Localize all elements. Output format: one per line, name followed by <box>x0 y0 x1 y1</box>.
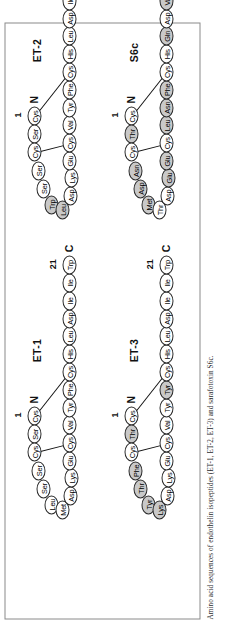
residue-bubble: Glu <box>159 451 173 470</box>
residue-bubble: Lys <box>64 168 78 187</box>
residue-bubble: Asn <box>128 161 142 180</box>
residue-bubble: Ser <box>36 179 50 198</box>
panel-title: ET-3 <box>127 338 139 361</box>
residue-bubble: Asn <box>159 98 173 117</box>
residue-bubble: Ser <box>31 461 45 480</box>
panel-title: S6c <box>127 42 139 62</box>
residue-bubble: Glu <box>161 168 175 187</box>
panel-s6c: S6c1N21CCysThrCysAsnAspMetThrAspGluGluCy… <box>104 26 200 316</box>
residue-bubble: Leu <box>159 115 173 134</box>
residue-bubble: Cys <box>27 142 41 161</box>
n-terminus-label: N <box>124 395 136 403</box>
residue-bubble: Glu <box>159 151 173 170</box>
residue-bubble: Tyr <box>62 98 76 117</box>
residue-bubble: Cys <box>62 433 76 452</box>
figure-page: ET-11N21CCysSerCysSerSerLeuMetAspLysGluC… <box>0 0 227 625</box>
panel-title: ET-1 <box>30 338 42 361</box>
residue-bubble: Val <box>62 415 76 434</box>
residue-bubble: Ile <box>62 0 76 10</box>
residue-bubble: Thr <box>124 424 138 443</box>
panel-et3: ET-31N21CCysThrCysPheThrTyrLysAspLysGluC… <box>104 326 200 616</box>
residue-bubble: His <box>62 344 76 363</box>
residue-bubble: His <box>159 344 173 363</box>
residue-bubble: Tyr <box>159 380 173 399</box>
residue-bubble: His <box>62 44 76 63</box>
position-1-label: 1 <box>109 412 119 417</box>
position-1-label: 1 <box>12 412 22 417</box>
residue-bubble: Asp <box>160 186 174 205</box>
residue-bubble: Cys <box>159 133 173 152</box>
residue-bubble: His <box>159 44 173 63</box>
residue-bubble: Asp <box>63 186 77 205</box>
residue-bubble: Thr <box>133 479 147 498</box>
residue-bubble: Cys <box>62 133 76 152</box>
residue-bubble: Cys <box>62 362 76 381</box>
residue-bubble: Asp <box>63 486 77 505</box>
n-terminus-label: N <box>27 95 39 103</box>
rotated-canvas: ET-11N21CCysSerCysSerSerLeuMetAspLysGluC… <box>0 0 227 625</box>
residue-bubble: Cys <box>159 62 173 81</box>
residue-bubble: Cys <box>62 62 76 81</box>
figure-caption: Amino acid sequences of endothelin isope… <box>206 7 214 619</box>
residue-bubble: Phe <box>62 380 76 399</box>
residue-bubble: Asp <box>133 179 147 198</box>
residue-bubble: Tyr <box>159 398 173 417</box>
n-terminus-label: N <box>124 95 136 103</box>
residue-bubble: Phe <box>128 461 142 480</box>
residue-bubble: Gln <box>159 26 173 45</box>
residue-bubble: Phe <box>159 80 173 99</box>
residue-bubble: Glu <box>62 151 76 170</box>
position-1-label: 1 <box>109 112 119 117</box>
residue-bubble: Ser <box>27 424 41 443</box>
residue-bubble: Cys <box>124 442 138 461</box>
residue-bubble: Val <box>159 0 173 10</box>
figure-border: ET-11N21CCysSerCysSerSerLeuMetAspLysGluC… <box>4 22 200 619</box>
residue-bubble: Asp <box>159 9 173 28</box>
panel-title: ET-2 <box>30 38 42 61</box>
residue-bubble: Leu <box>62 26 76 45</box>
residue-bubble: Leu <box>159 326 173 345</box>
residue-bubble: Lys <box>64 468 78 487</box>
residue-bubble: Cys <box>159 433 173 452</box>
residue-bubble: Ser <box>27 124 41 143</box>
position-1-label: 1 <box>12 112 22 117</box>
residue-bubble: Glu <box>62 451 76 470</box>
residue-bubble: Ser <box>36 479 50 498</box>
residue-bubble: Asp <box>160 486 174 505</box>
residue-bubble: Thr <box>124 124 138 143</box>
residue-bubble: Val <box>159 415 173 434</box>
residue-bubble: Tyr <box>62 398 76 417</box>
panel-et2: ET-21N21CCysSerCysSerSerTrpLeuAspLysGluC… <box>7 26 103 316</box>
residue-bubble: Cys <box>124 142 138 161</box>
residue-bubble: Cys <box>159 362 173 381</box>
residue-bubble: Cys <box>124 107 138 126</box>
residue-bubble: Cys <box>27 442 41 461</box>
residue-bubble: Ser <box>31 161 45 180</box>
panel-et1: ET-11N21CCysSerCysSerSerLeuMetAspLysGluC… <box>7 326 103 616</box>
residue-bubble: Lys <box>161 468 175 487</box>
residue-bubble: Leu <box>62 326 76 345</box>
residue-bubble: Cys <box>124 407 138 426</box>
residue-bubble: Cys <box>27 107 41 126</box>
n-terminus-label: N <box>27 395 39 403</box>
residue-bubble: Val <box>62 115 76 134</box>
residue-bubble: Phe <box>62 80 76 99</box>
residue-bubble: Asp <box>62 9 76 28</box>
residue-bubble: Cys <box>27 407 41 426</box>
